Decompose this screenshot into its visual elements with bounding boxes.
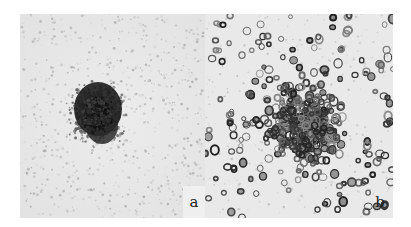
micrograph-figure: a b: [20, 14, 393, 218]
dispersed-cells-image: [205, 14, 393, 218]
panel-label-b: b: [367, 186, 393, 218]
panel-b-micrograph: b: [205, 14, 393, 218]
cell-cluster-image: [20, 14, 205, 218]
panel-label-a: a: [183, 186, 205, 218]
panel-a-micrograph: a: [20, 14, 205, 218]
